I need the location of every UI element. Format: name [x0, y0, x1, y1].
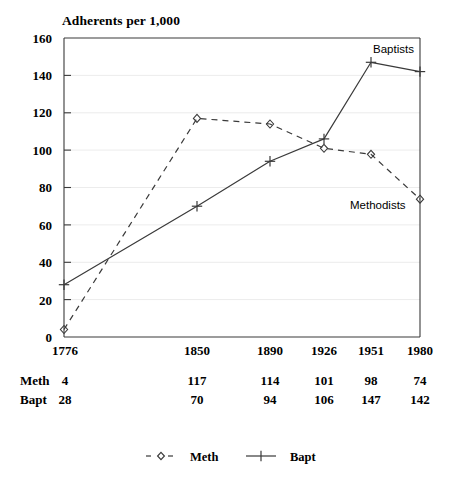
ytick-label-80: 80	[8, 180, 52, 196]
ytick-label-60: 60	[8, 218, 52, 234]
legend-label-meth: Meth	[190, 450, 218, 465]
ytick-label-40: 40	[8, 255, 52, 271]
series-markers-bapt	[59, 57, 425, 290]
table-cell-meth-1890: 114	[247, 373, 293, 389]
table-cell-meth-1980: 74	[397, 373, 443, 389]
chart-graphics	[0, 0, 452, 484]
table-cell-bapt-1980: 142	[397, 392, 443, 408]
ytick-label-120: 120	[8, 105, 52, 121]
table-cell-meth-1951: 98	[348, 373, 394, 389]
xtick-label-1980: 1980	[394, 343, 446, 359]
ytick-label-160: 160	[8, 31, 52, 47]
xtick-label-1890: 1890	[244, 343, 296, 359]
table-cell-bapt-1951: 147	[348, 392, 394, 408]
chart-figure: Adherents per 1,000 160 140 120 100 80 6…	[0, 0, 452, 484]
table-cell-bapt-1850: 70	[174, 392, 220, 408]
legend-glyph-meth	[146, 452, 176, 459]
ytick-label-100: 100	[8, 143, 52, 159]
table-cell-bapt-1926: 106	[301, 392, 347, 408]
chart-title: Adherents per 1,000	[62, 13, 180, 29]
gridlines	[64, 75, 420, 299]
xtick-label-1850: 1850	[171, 343, 223, 359]
legend-glyph-bapt	[246, 451, 276, 461]
table-cell-meth-1850: 117	[174, 373, 220, 389]
table-cell-bapt-1890: 94	[247, 392, 293, 408]
series-markers-meth	[60, 114, 423, 333]
table-cell-meth-1926: 101	[301, 373, 347, 389]
legend-label-bapt: Bapt	[290, 450, 316, 465]
plot-frame	[64, 38, 420, 337]
table-cell-meth-1776: 4	[48, 373, 82, 389]
xtick-label-1926: 1926	[298, 343, 350, 359]
xtick-label-1776: 1776	[39, 343, 91, 359]
series-annotation-methodists: Methodists	[350, 199, 406, 211]
series-annotation-baptists: Baptists	[373, 43, 414, 55]
ytick-label-140: 140	[8, 68, 52, 84]
xtick-label-1951: 1951	[345, 343, 397, 359]
y-axis-ticks	[64, 75, 71, 299]
table-row-label-meth: Meth	[20, 373, 50, 389]
table-cell-bapt-1776: 28	[48, 392, 82, 408]
series-line-meth	[64, 118, 420, 329]
table-row-label-bapt: Bapt	[20, 392, 47, 408]
series-line-bapt	[64, 62, 420, 284]
ytick-label-20: 20	[8, 293, 52, 309]
